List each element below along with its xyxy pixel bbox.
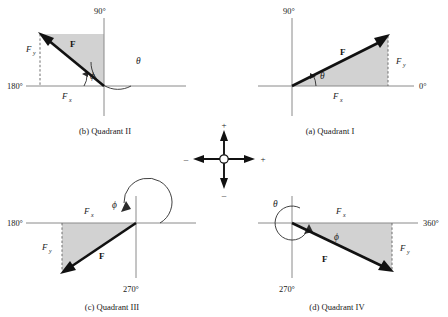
fx-label-q2: F [61,91,68,101]
caption-q4: (d) Quadrant IV [309,302,365,312]
phi-label-q4: ϕ [334,232,339,242]
axis-label-180-q3: 180° [7,219,23,228]
fy-label-q1: F [395,56,402,66]
fx-subscript-q4: x [342,212,346,218]
fx-subscript-q3: x [90,212,94,218]
compass-label-up: + [221,120,226,130]
axis-label-90-q2: 90° [94,7,106,16]
axis-label-270-q3: 270° [123,285,139,294]
fy-subscript-q3: y [48,248,52,254]
fx-subscript-q2: x [68,97,72,103]
phi-arc-q3 [124,178,172,223]
compass-arrow-up [220,130,228,141]
panel-quadrant-4: 270° 360° F x F y F θ ϕ (d) Quadrant IV [258,196,439,312]
caption-q2: (b) Quadrant II [79,126,131,136]
compass-center-dot [220,155,228,163]
force-quadrant-figure: 180° 90° F y F x F θ ϕ (b) Quadrant II 9… [0,0,448,317]
fx-label-q3: F [83,206,90,216]
compass-arrow-right [244,155,255,163]
compass-label-down: – [221,190,227,200]
fy-subscript-q2: y [32,50,36,56]
fx-subscript-q1: x [339,97,343,103]
phi-label-q2: ϕ [90,71,95,81]
compass-arrow-left [193,155,204,163]
vector-label-q4: F [322,254,328,264]
phi-arrowhead-q3 [121,201,131,212]
panel-quadrant-3: 180° 270° F x F y F ϕ (c) Quadrant III [7,178,196,312]
fx-label-q4: F [335,206,342,216]
compass-arrow-down [220,178,228,189]
theta-label-q1: θ [320,71,325,81]
compass-label-left: – [183,154,189,164]
fx-label-q1: F [332,91,339,101]
caption-q3: (c) Quadrant III [85,302,140,312]
phi-arc-q2 [84,75,87,86]
sign-compass: + + – – [183,120,266,200]
axis-label-180-q2: 180° [7,82,23,91]
fy-label-q2: F [25,44,32,54]
vector-label-q3: F [99,251,105,261]
fy-subscript-q1: y [402,62,406,68]
axis-label-270-q4: 270° [279,285,295,294]
phi-label-q3: ϕ [112,200,117,210]
panel-quadrant-2: 180° 90° F y F x F θ ϕ (b) Quadrant II [7,7,186,136]
panel-quadrant-1: 90° 0° F y F x F θ (a) Quadrant I [258,7,427,136]
theta-label-q2: θ [136,56,141,66]
fy-label-q3: F [41,242,48,252]
compass-label-right: + [260,154,265,164]
theta-label-q4: θ [273,199,278,209]
fy-label-q4: F [399,243,406,253]
vector-label-q1: F [340,47,346,57]
vector-label-q2: F [70,39,76,49]
axis-label-360-q4: 360° [423,219,439,228]
fy-subscript-q4: y [406,249,410,255]
axis-label-90-q1: 90° [283,7,295,16]
axis-label-0-q1: 0° [419,82,427,91]
caption-q1: (a) Quadrant I [306,126,355,136]
